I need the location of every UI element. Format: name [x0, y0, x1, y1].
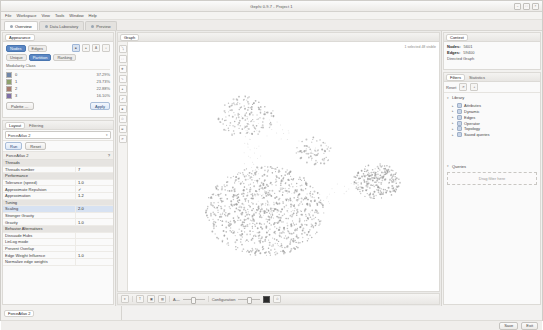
- property-value[interactable]: 1.2: [76, 192, 113, 199]
- mode-partition-button[interactable]: Partition: [29, 54, 52, 61]
- partition-row[interactable]: 0 37.29%: [6, 71, 110, 78]
- run-layout-button[interactable]: Run: [5, 142, 22, 150]
- property-value[interactable]: [76, 245, 113, 252]
- tab-statistics[interactable]: Statistics: [466, 75, 488, 80]
- close-button[interactable]: ×: [532, 3, 539, 10]
- edge-label-icon[interactable]: ▤: [158, 295, 166, 303]
- property-value[interactable]: [76, 212, 113, 219]
- partition-label: 0: [15, 72, 17, 77]
- minimize-button[interactable]: –: [514, 3, 521, 10]
- graph-vertical-toolbar: ⤵ □ ✥ ✎ ● ↗ ■ ☉ ⊕ ↺: [118, 42, 128, 291]
- cursor-icon[interactable]: ⤵: [119, 45, 127, 53]
- target-nodes-button[interactable]: Nodes: [6, 45, 26, 52]
- rect-select-icon[interactable]: □: [119, 55, 127, 63]
- partition-row[interactable]: 2 22.88%: [6, 85, 110, 92]
- refresh-icon[interactable]: ↺: [459, 83, 467, 91]
- tab-filters[interactable]: Filters: [446, 74, 465, 81]
- reset-layout-button[interactable]: Reset: [25, 142, 45, 150]
- menu-item-help[interactable]: Help: [89, 13, 97, 18]
- add-filter-icon[interactable]: +: [470, 83, 478, 91]
- attribute-slider[interactable]: [238, 299, 260, 300]
- property-name: Dissuade Hubs: [3, 232, 76, 239]
- exit-button[interactable]: Exit: [521, 322, 538, 330]
- menu-item-window[interactable]: Window: [69, 13, 83, 18]
- background-color-chip[interactable]: [263, 296, 270, 303]
- property-value[interactable]: [76, 239, 113, 246]
- partition-row[interactable]: 1 23.73%: [6, 78, 110, 85]
- property-value[interactable]: 2.0: [76, 206, 113, 213]
- paint-icon[interactable]: ✎: [119, 75, 127, 83]
- folder-icon: [457, 132, 462, 137]
- property-value[interactable]: 1.0: [76, 219, 113, 226]
- target-edges-button[interactable]: Edges: [28, 45, 47, 52]
- property-name: Approximate Repulsion: [3, 186, 76, 193]
- property-value[interactable]: 1.0: [76, 252, 113, 259]
- graph-node-layer: [205, 95, 401, 256]
- filters-body: ▾ Library ▸ Attributes ▸ Dynamic: [444, 93, 540, 304]
- label-size-slider[interactable]: [183, 299, 205, 300]
- filter-dropzone[interactable]: Drag filter here: [447, 172, 537, 185]
- menu-item-workspace[interactable]: Workspace: [16, 13, 36, 18]
- label-color-icon[interactable]: A: [92, 44, 100, 52]
- graph-canvas[interactable]: 1 selected 48 visible: [128, 42, 439, 291]
- size-brush-icon[interactable]: ●: [119, 85, 127, 93]
- layout-properties-title-label: ForceAtlas 2: [6, 153, 28, 158]
- label-size-icon[interactable]: ↕: [102, 44, 110, 52]
- palette-button[interactable]: Palette …: [6, 102, 34, 110]
- menu-item-view[interactable]: View: [41, 13, 50, 18]
- property-group-label: Behavior Alternatives: [3, 225, 113, 232]
- menu-item-tools[interactable]: Tools: [55, 13, 64, 18]
- reset-zoom-icon[interactable]: ↺: [119, 135, 127, 143]
- mode-ranking-button[interactable]: Ranking: [53, 54, 76, 61]
- tab-context[interactable]: Context: [446, 34, 468, 41]
- property-value[interactable]: [76, 232, 113, 239]
- property-row: Tolerance (speed)1.0: [3, 179, 113, 186]
- property-group: Behavior Alternatives: [3, 225, 113, 232]
- partition-row[interactable]: 3 16.10%: [6, 92, 110, 99]
- property-value[interactable]: 7: [76, 166, 113, 173]
- apply-button[interactable]: Apply: [90, 102, 110, 110]
- property-value[interactable]: ✓: [76, 186, 113, 193]
- color-icon[interactable]: ■: [72, 44, 80, 52]
- heatmap-icon[interactable]: ☉: [119, 115, 127, 123]
- context-value-edges: 59400: [463, 50, 474, 55]
- node-label-icon[interactable]: ▣: [147, 295, 155, 303]
- shortest-path-icon[interactable]: ↗: [119, 95, 127, 103]
- canvas-selection-note: 1 selected 48 visible: [404, 45, 436, 50]
- size-icon[interactable]: ●: [82, 44, 90, 52]
- attribute-label[interactable]: Configuration: [212, 297, 236, 302]
- camera-icon[interactable]: ☉: [273, 295, 281, 303]
- folder-icon: [457, 121, 462, 126]
- tab-filtering[interactable]: Filtering: [26, 123, 46, 128]
- drag-icon[interactable]: ✥: [119, 65, 127, 73]
- queries-root[interactable]: ▾ Queries: [447, 163, 537, 169]
- help-icon[interactable]: ?: [108, 153, 110, 158]
- property-value[interactable]: 1.0: [76, 179, 113, 186]
- save-button[interactable]: Save: [499, 322, 518, 330]
- layout-algorithm-select[interactable]: ForceAtlas 2 ▾: [5, 131, 111, 139]
- property-row: Approximate Repulsion✓: [3, 186, 113, 193]
- tab-appearance[interactable]: Appearance: [5, 34, 35, 41]
- tab-bottom-layout[interactable]: ForceAtlas 2: [4, 310, 34, 317]
- library-item-label: Saved queries: [464, 132, 490, 137]
- tab-preview[interactable]: Preview: [85, 21, 116, 30]
- mode-unique-button[interactable]: Unique: [6, 54, 27, 61]
- center-icon[interactable]: ⊕: [119, 125, 127, 133]
- property-group-label: Performance: [3, 173, 113, 180]
- tab-data-laboratory[interactable]: Data Laboratory: [39, 21, 85, 30]
- font-icon[interactable]: T: [136, 295, 144, 303]
- library-root[interactable]: ▾ Library: [447, 95, 537, 101]
- tab-layout[interactable]: Layout: [5, 122, 25, 129]
- tab-graph[interactable]: Graph: [120, 34, 139, 41]
- label-icon[interactable]: ▾: [121, 295, 129, 303]
- tab-overview[interactable]: Overview: [4, 21, 38, 30]
- library-item-saved-queries[interactable]: ▸ Saved queries: [447, 132, 537, 138]
- partition-attribute-label[interactable]: Modularity Class: [6, 63, 110, 70]
- library-label: Library: [452, 95, 464, 100]
- graph-tab-bar: Graph: [118, 33, 439, 42]
- property-value[interactable]: [76, 258, 113, 265]
- maximize-button[interactable]: □: [523, 3, 530, 10]
- menu-item-file[interactable]: File: [5, 13, 11, 18]
- filters-reset-label[interactable]: Reset: [446, 85, 456, 90]
- edit-node-icon[interactable]: ■: [119, 105, 127, 113]
